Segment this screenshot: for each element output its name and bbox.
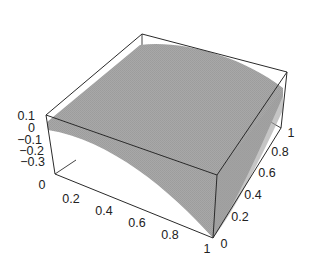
x-tick: 0.4 — [95, 204, 112, 218]
x-tick: 0.6 — [128, 216, 145, 230]
x-tick: 0.8 — [161, 228, 178, 242]
x-tick: 1 — [204, 242, 211, 256]
y-tick: 0.4 — [244, 188, 261, 202]
y-tick: 0 — [221, 237, 228, 251]
y-tick: 0.2 — [231, 210, 248, 224]
x-tick: 0 — [39, 178, 46, 192]
y-tick: 1 — [288, 126, 295, 140]
z-axis-labels: 0.1 0 −0.1 −0.2 −0.3 — [17, 109, 45, 169]
y-tick: 0.6 — [258, 166, 275, 180]
surface-plot-3d: 0.1 0 −0.1 −0.2 −0.3 0 0.2 0.4 0.6 0.8 1… — [0, 0, 316, 262]
y-tick: 0.8 — [271, 145, 288, 159]
z-tick: −0.3 — [20, 155, 45, 169]
x-tick: 0.2 — [62, 192, 79, 206]
